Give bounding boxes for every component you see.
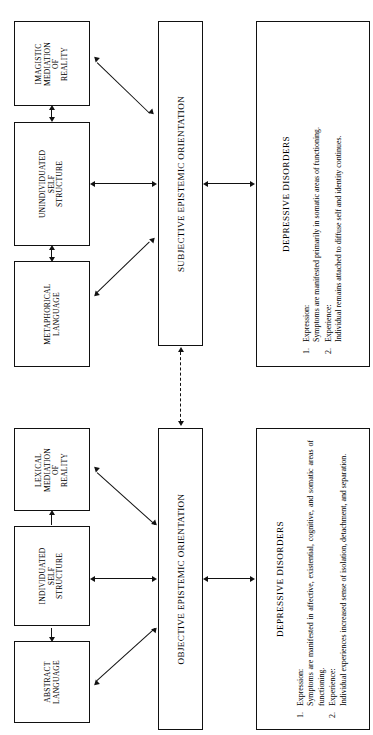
panel-depressive-disorders-subjective-content: DEPRESSIVE DISORDERS 1. Expression: Symp…	[281, 34, 346, 354]
connector-abstract-objective	[97, 628, 156, 681]
arrowhead-right-objective	[152, 576, 157, 582]
panel-title-upper: DEPRESSIVE DISORDERS	[281, 34, 291, 354]
panel-depressive-disorders-subjective: DEPRESSIVE DISORDERS 1. Expression: Symp…	[256, 21, 370, 367]
arrowhead-left-individuated	[90, 576, 95, 582]
list-item-heading: Expression:	[302, 34, 312, 342]
connector-imagistic-subjective	[97, 62, 150, 114]
list-item-number: 2.	[324, 342, 345, 354]
connector-individuated-objective	[93, 578, 155, 579]
arrowhead-abstract-end	[92, 680, 100, 688]
box-imagistic-mediation-of-reality: IMAGISTIC MEDIATION OF REALITY	[14, 21, 90, 106]
panel-depressive-disorders-objective: DEPRESSIVE DISORDERS 1. Expression: Symp…	[256, 428, 370, 730]
connector-lexical-objective	[97, 472, 156, 525]
arrowhead-lexical-end	[92, 465, 100, 473]
arrowhead-up-unindividuated	[49, 245, 55, 250]
connector-metaphorical-subjective	[97, 241, 150, 293]
connector-subjective-objective-dashed	[180, 352, 181, 422]
arrowhead-left-unindividuated	[90, 181, 95, 187]
list-item: 1. Expression: Symptoms are manifested i…	[296, 440, 327, 718]
list-item-text: Individual experiences increased sense o…	[339, 440, 349, 706]
box-lexical-mediation-of-reality: LEXICAL MEDIATION OF REALITY	[14, 428, 90, 511]
arrowhead-right-depressive-lower	[250, 576, 255, 582]
arrowhead-up-lexical	[49, 510, 55, 515]
diagram-canvas: IMAGISTIC MEDIATION OF REALITY UNINDIVID…	[0, 0, 373, 735]
list-item-number: 1.	[302, 342, 323, 354]
arrowhead-down-unindividuated	[49, 117, 55, 122]
arrowhead-up-imagistic	[49, 105, 55, 110]
arrowhead-subjective-upper-end	[148, 109, 156, 117]
box-individuated-self-structure: INDIVIDUATED SELF STRUCTURE	[14, 526, 90, 626]
arrowhead-left-objective	[203, 576, 208, 582]
box-metaphorical-language: METAPHORICAL LANGUAGE	[14, 261, 90, 367]
box-subjective-epistemic-orientation-label: SUBJECTIVE EPISTEMIC ORIENTATION	[175, 95, 185, 271]
list-item-heading: Expression:	[296, 440, 306, 706]
arrowhead-subjective-lower-end	[149, 236, 157, 244]
panel-list-upper: 1. Expression: Symptoms are manifested p…	[302, 34, 345, 354]
list-item-number: 1.	[296, 706, 327, 718]
box-metaphorical-language-label: METAPHORICAL LANGUAGE	[44, 283, 61, 344]
list-item-heading: Experience:	[329, 440, 339, 706]
box-objective-epistemic-orientation: OBJECTIVE EPISTEMIC ORIENTATION	[158, 428, 203, 730]
list-item: 1. Expression: Symptoms are manifested p…	[302, 34, 323, 354]
panel-list-lower: 1. Expression: Symptoms are manifested i…	[296, 440, 349, 718]
box-lexical-mediation-label: LEXICAL MEDIATION OF REALITY	[35, 448, 69, 492]
box-abstract-language: ABSTRACT LANGUAGE	[14, 641, 90, 723]
panel-title-lower: DEPRESSIVE DISORDERS	[275, 440, 285, 718]
arrowhead-down-objective-bar	[178, 421, 184, 426]
list-item: 2. Experience: Individual remains attach…	[324, 34, 345, 354]
connector-unindividuated-subjective	[93, 183, 155, 184]
arrowhead-down-metaphorical	[49, 257, 55, 262]
box-individuated-self-structure-label: INDIVIDUATED SELF STRUCTURE	[39, 548, 65, 605]
list-item-heading: Experience:	[324, 34, 334, 342]
list-item-number: 2.	[329, 706, 350, 718]
connector-objective-depressive	[206, 578, 253, 579]
box-abstract-language-label: ABSTRACT LANGUAGE	[44, 660, 61, 704]
list-item-text: Individual remains attached to diffuse s…	[334, 34, 344, 342]
box-subjective-epistemic-orientation: SUBJECTIVE EPISTEMIC ORIENTATION	[158, 21, 203, 346]
arrowhead-right-subjective	[152, 181, 157, 187]
arrowhead-right-depressive-upper	[250, 181, 255, 187]
list-item-text: Symptoms are manifested in affective, ex…	[307, 440, 328, 706]
box-unindividuated-self-structure: UNINDIVIDUATED SELF STRUCTURE	[14, 122, 90, 246]
arrowhead-down-abstract	[49, 637, 55, 642]
list-item-text: Symptoms are manifested primarily in som…	[312, 34, 322, 342]
arrowhead-imagistic-end	[92, 55, 100, 63]
box-imagistic-mediation-label: IMAGISTIC MEDIATION OF REALITY	[35, 42, 69, 86]
box-unindividuated-self-structure-label: UNINDIVIDUATED SELF STRUCTURE	[39, 150, 65, 218]
arrowhead-up-subjective-bar	[178, 347, 184, 352]
box-objective-epistemic-orientation-label: OBJECTIVE EPISTEMIC ORIENTATION	[175, 494, 185, 665]
arrowhead-left-subjective	[203, 181, 208, 187]
connector-subjective-depressive	[206, 183, 253, 184]
panel-depressive-disorders-objective-content: DEPRESSIVE DISORDERS 1. Expression: Symp…	[275, 440, 350, 718]
list-item: 2. Experience: Individual experiences in…	[329, 440, 350, 718]
